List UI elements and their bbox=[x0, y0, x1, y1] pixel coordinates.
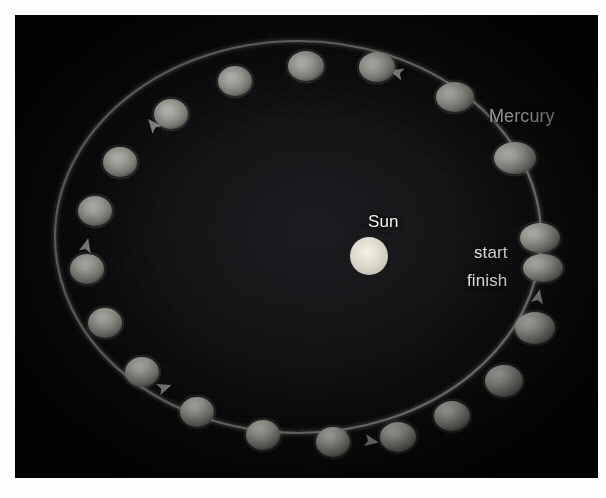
figure-caption-strip bbox=[15, 483, 598, 498]
sun-body bbox=[350, 237, 388, 275]
mercury-sphere bbox=[521, 252, 566, 285]
mercury-sphere bbox=[244, 418, 283, 453]
mercury-sphere bbox=[357, 50, 398, 85]
mercury-sphere bbox=[86, 306, 125, 341]
arrow-left-icon bbox=[79, 237, 94, 253]
mercury-sphere bbox=[483, 363, 526, 400]
mercury-sphere bbox=[76, 194, 115, 229]
label-start: start bbox=[474, 244, 508, 261]
mercury-sphere bbox=[432, 399, 473, 434]
mercury-sphere bbox=[178, 395, 217, 430]
figure-root: Mercury Sun start finish bbox=[0, 0, 606, 498]
orbit-svg bbox=[15, 15, 598, 478]
orbit-diagram-panel: Mercury Sun start finish bbox=[15, 15, 598, 478]
mercury-sphere bbox=[378, 420, 419, 455]
mercury-sphere bbox=[518, 221, 563, 256]
sun-disc bbox=[350, 237, 388, 275]
arrow-right-icon bbox=[531, 288, 546, 304]
label-finish: finish bbox=[467, 272, 507, 289]
mercury-sphere bbox=[434, 80, 477, 115]
mercury-sphere bbox=[152, 97, 191, 132]
mercury-sphere bbox=[68, 252, 107, 287]
mercury-sphere bbox=[513, 310, 558, 347]
label-mercury: Mercury bbox=[489, 107, 555, 125]
mercury-sphere bbox=[216, 64, 255, 99]
mercury-sphere bbox=[101, 145, 140, 180]
label-sun: Sun bbox=[368, 213, 399, 230]
mercury-sphere bbox=[492, 140, 539, 177]
arrow-lower-left-icon bbox=[156, 379, 173, 395]
mercury-sphere bbox=[314, 425, 353, 460]
mercury-sphere bbox=[123, 355, 162, 390]
mercury-sphere bbox=[286, 49, 327, 84]
